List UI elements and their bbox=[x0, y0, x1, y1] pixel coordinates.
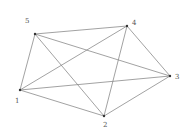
node-label-3: 3 bbox=[175, 73, 179, 81]
edge-1-5 bbox=[20, 34, 35, 90]
graph-diagram: 12345 bbox=[0, 0, 186, 131]
edge-3-4 bbox=[127, 26, 170, 76]
edges-group bbox=[20, 26, 170, 116]
node-5 bbox=[34, 33, 36, 35]
node-2 bbox=[103, 115, 105, 117]
edge-1-3 bbox=[20, 76, 170, 90]
node-label-4: 4 bbox=[132, 19, 137, 27]
node-label-5: 5 bbox=[25, 17, 29, 25]
edge-2-3 bbox=[104, 76, 170, 116]
node-label-2: 2 bbox=[103, 121, 107, 129]
edge-4-5 bbox=[35, 26, 127, 34]
nodes-group bbox=[19, 25, 171, 117]
node-4 bbox=[126, 25, 128, 27]
edge-1-2 bbox=[20, 90, 104, 116]
node-1 bbox=[19, 89, 21, 91]
edge-2-4 bbox=[104, 26, 127, 116]
node-label-1: 1 bbox=[15, 97, 19, 105]
node-3 bbox=[169, 75, 171, 77]
